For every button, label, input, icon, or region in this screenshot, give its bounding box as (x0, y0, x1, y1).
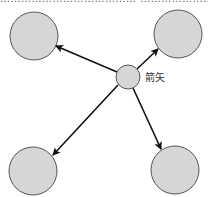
center-node-label: 箭矢 (145, 69, 165, 84)
node-bottom-right (151, 146, 199, 194)
node-bottom-left (9, 147, 57, 195)
center-node (116, 65, 140, 89)
node-top-left (10, 12, 58, 60)
arrows (53, 46, 161, 155)
arrow-diagram (0, 0, 208, 197)
arrow-to-bottom-left (53, 85, 118, 155)
arrow-to-top-right (137, 49, 158, 69)
arrow-to-top-left (56, 46, 117, 72)
arrow-to-bottom-right (133, 88, 161, 149)
outer-nodes (9, 10, 202, 195)
node-top-right (154, 10, 202, 58)
